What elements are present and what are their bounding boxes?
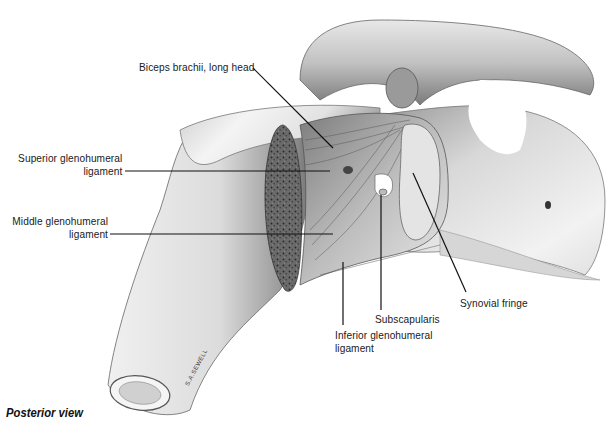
label-text: Synovial fringe xyxy=(460,297,528,309)
label-text: Subscapularis xyxy=(375,313,440,325)
nutrient-foramen xyxy=(545,201,551,209)
label-text: Inferior glenohumeral xyxy=(335,329,433,342)
coracoid-knob xyxy=(386,68,418,108)
label-subscapularis: Subscapularis xyxy=(375,313,440,326)
label-text: Superior glenohumeral xyxy=(18,152,122,165)
label-text: ligament xyxy=(18,165,122,178)
label-text: Biceps brachii, long head xyxy=(139,61,254,73)
label-inferior-glenohumeral-ligament: Inferior glenohumeral ligament xyxy=(335,329,433,355)
label-text: ligament xyxy=(335,342,433,355)
label-superior-glenohumeral-ligament: Superior glenohumeral ligament xyxy=(18,152,122,178)
label-text: Middle glenohumeral xyxy=(12,215,108,228)
figure-caption: Posterior view xyxy=(6,406,83,420)
label-text: ligament xyxy=(12,228,108,241)
acromion xyxy=(300,20,594,105)
label-synovial-fringe: Synovial fringe xyxy=(460,297,528,310)
label-biceps-brachii-long-head: Biceps brachii, long head xyxy=(139,61,254,74)
label-middle-glenohumeral-ligament: Middle glenohumeral ligament xyxy=(12,215,108,241)
